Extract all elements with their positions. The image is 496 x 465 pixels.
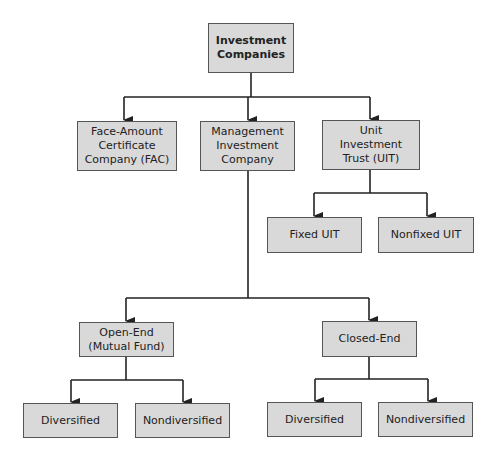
- node-management-investment-company: Management Investment Company: [200, 121, 295, 171]
- node-unit-investment-trust: Unit Investment Trust (UIT): [322, 120, 420, 170]
- node-label: Unit Investment Trust (UIT): [340, 124, 402, 166]
- node-open-end-nondiversified: Nondiversified: [135, 403, 230, 438]
- node-label: Nondiversified: [143, 414, 222, 428]
- node-label: Open-End (Mutual Fund): [88, 326, 164, 354]
- node-face-amount-certificate-company: Face-Amount Certificate Company (FAC): [77, 121, 177, 171]
- node-label: Diversified: [285, 413, 344, 427]
- investment-companies-diagram: Investment Companies Face-Amount Certifi…: [0, 0, 496, 465]
- node-closed-end-nondiversified: Nondiversified: [378, 402, 473, 437]
- node-label: Face-Amount Certificate Company (FAC): [85, 125, 170, 167]
- node-open-end-diversified: Diversified: [23, 403, 118, 438]
- node-investment-companies: Investment Companies: [208, 23, 294, 73]
- node-open-end-mutual-fund: Open-End (Mutual Fund): [79, 322, 174, 357]
- node-label: Nondiversified: [386, 413, 465, 427]
- node-label: Management Investment Company: [211, 125, 283, 167]
- node-label: Fixed UIT: [289, 228, 339, 242]
- node-nonfixed-uit: Nonfixed UIT: [378, 217, 474, 253]
- node-label: Diversified: [41, 414, 100, 428]
- node-label: Nonfixed UIT: [391, 228, 461, 242]
- node-closed-end-diversified: Diversified: [267, 402, 362, 437]
- node-closed-end: Closed-End: [322, 321, 417, 357]
- node-label: Investment Companies: [216, 34, 286, 62]
- node-label: Closed-End: [339, 332, 401, 346]
- node-fixed-uit: Fixed UIT: [267, 217, 362, 253]
